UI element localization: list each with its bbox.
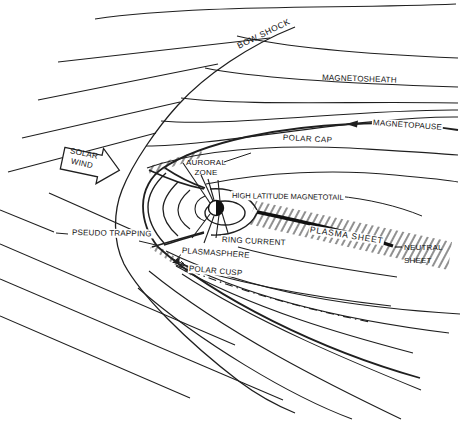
label-auroral-zone: AURORAL ZONE — [184, 158, 228, 177]
label-pseudo-trapping: PSEUDO TRAPPING — [71, 228, 153, 238]
earth — [209, 201, 224, 216]
magnetosphere-diagram: BOW SHOCK MAGNETOSHEATH MAGNETOPAUSE POL… — [0, 0, 463, 434]
diagram-canvas — [0, 0, 463, 434]
imf-field-lines-lower — [0, 193, 283, 400]
label-neutral-sheet: NEUTRAL SHEET — [404, 241, 443, 267]
